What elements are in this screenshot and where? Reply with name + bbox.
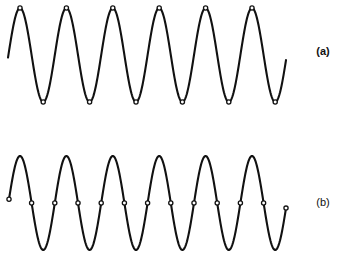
sample-point xyxy=(41,100,45,104)
sample-point xyxy=(262,201,266,205)
sample-point xyxy=(7,197,11,201)
sample-point xyxy=(134,100,138,104)
sample-point xyxy=(238,201,242,205)
sample-point xyxy=(76,201,80,205)
sample-point xyxy=(53,201,57,205)
sample-point xyxy=(227,100,231,104)
panel-label-a: (a) xyxy=(316,45,330,57)
sample-point xyxy=(64,6,68,10)
panel-a-peak-sampling: (a) xyxy=(8,6,330,104)
sampling-diagram: (a) (b) xyxy=(0,0,339,261)
sample-point xyxy=(180,100,184,104)
sample-point xyxy=(169,201,173,205)
sample-point xyxy=(122,201,126,205)
sample-point xyxy=(99,201,103,205)
sample-point xyxy=(88,100,92,104)
panel-b-zero-crossing-sampling: (b) xyxy=(7,156,330,250)
sample-point xyxy=(192,201,196,205)
sample-point xyxy=(30,201,34,205)
sine-wave-a xyxy=(8,8,286,102)
sample-point xyxy=(157,6,161,10)
sample-point xyxy=(111,6,115,10)
sample-point xyxy=(284,206,288,210)
panel-label-b: (b) xyxy=(316,196,329,208)
sample-point xyxy=(273,100,277,104)
sample-point xyxy=(18,6,22,10)
sample-point xyxy=(146,201,150,205)
sample-point xyxy=(250,6,254,10)
sample-point xyxy=(215,201,219,205)
sample-point xyxy=(204,6,208,10)
